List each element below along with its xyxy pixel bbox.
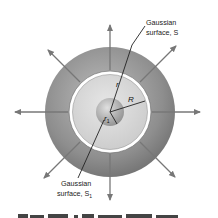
symbol-r: r (116, 80, 119, 89)
label-gaussian-surface-s-1: Gaussian (146, 18, 176, 27)
symbol-R: R (128, 95, 134, 104)
leader-s-line (132, 26, 145, 45)
label-gaussian-surface-s1-1: Gaussian (61, 179, 91, 188)
gauss-law-diagram: Gaussian surface, S Gaussian surface, S1… (0, 0, 218, 218)
label-gaussian-surface-s-2: surface, S (146, 28, 179, 37)
label-gaussian-surface-s1-2: surface, S1 (57, 189, 92, 199)
